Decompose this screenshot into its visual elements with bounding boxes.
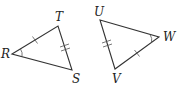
triangle-uvw: U V W [94,5,177,86]
vertex-label-v: V [112,72,122,86]
triangle-uvw-outline [100,20,159,69]
triangle-rts-outline [12,26,72,70]
vertex-label-s: S [72,72,80,86]
triangle-rts: R T S [0,10,80,86]
vertex-label-u: U [94,5,105,19]
vertex-label-w: W [163,30,177,44]
congruent-triangles-diagram: R T S U V W [0,0,179,87]
vertex-label-t: T [55,10,64,24]
angle-arc-w [150,35,152,43]
single-tick-mark-vw [135,50,140,57]
vertex-label-r: R [0,47,10,61]
single-tick-mark-rt [33,37,38,44]
angle-arc-r [21,49,23,57]
